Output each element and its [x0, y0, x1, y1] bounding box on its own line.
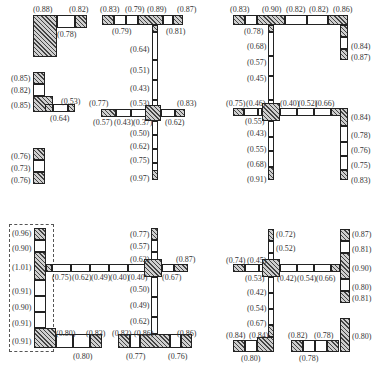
value-label: (0.80) — [241, 354, 260, 363]
plain-segment-panel-top-right — [268, 56, 274, 76]
hatched-segment-panel-top-right — [233, 15, 245, 25]
value-label: (0.78) — [314, 331, 333, 340]
plain-segment-panel-bottom-left — [109, 264, 128, 272]
hatched-segment-panel-top-right — [257, 15, 285, 25]
value-label: (0.49) — [91, 273, 110, 282]
hatched-segment-panel-top-left — [152, 25, 158, 32]
value-label: (0.57) — [93, 118, 112, 127]
value-label: (0.50) — [130, 285, 149, 294]
value-label: (0.67) — [162, 273, 181, 282]
hatched-segment-panel-bottom-right — [233, 264, 245, 272]
value-label: (0.83) — [177, 99, 196, 108]
plain-segment-panel-bottom-right — [315, 340, 327, 352]
hatched-segment-panel-top-right — [268, 167, 274, 180]
value-label: (0.77) — [126, 352, 145, 361]
plain-segment-panel-bottom-right — [268, 293, 274, 309]
value-label: (0.76) — [11, 152, 30, 161]
value-label: (0.85) — [11, 101, 30, 110]
plain-segment-panel-bottom-right — [340, 279, 350, 291]
plain-segment-panel-top-left — [152, 80, 158, 100]
value-label: (0.80) — [352, 332, 371, 341]
value-label: (0.88) — [33, 5, 52, 14]
plain-segment-panel-top-right — [340, 142, 348, 156]
value-label: (0.66) — [315, 99, 334, 108]
value-label: (0.78) — [351, 131, 370, 140]
hatched-segment-panel-top-right — [340, 170, 348, 180]
value-label: (0.62) — [130, 142, 149, 151]
hatched-segment-panel-bottom-left — [34, 328, 56, 348]
value-label: (0.46) — [246, 99, 265, 108]
hatched-segment-panel-top-left — [33, 172, 45, 184]
plain-segment-panel-bottom-left — [34, 240, 46, 252]
value-label: (0.45) — [247, 256, 266, 265]
value-label: (0.80) — [56, 329, 75, 338]
plain-segment-panel-bottom-left — [151, 240, 158, 252]
value-label: (0.82) — [69, 5, 88, 14]
hatched-segment-panel-bottom-right — [268, 229, 274, 241]
value-label: (0.62) — [165, 118, 184, 127]
value-label: (0.57) — [247, 58, 266, 67]
hatched-segment-panel-top-right — [340, 25, 348, 37]
plain-segment-panel-bottom-left — [34, 280, 46, 296]
plain-segment-panel-bottom-right — [340, 241, 350, 253]
plain-segment-panel-bottom-right — [245, 340, 257, 352]
hatched-segment-panel-bottom-right — [340, 229, 350, 241]
value-label: (0.75) — [226, 99, 245, 108]
plain-segment-panel-top-left — [114, 15, 126, 25]
value-label: (0.43) — [247, 129, 266, 138]
value-label: (0.84) — [226, 331, 245, 340]
plain-segment-panel-bottom-right — [297, 264, 314, 272]
value-label: (0.75) — [52, 273, 71, 282]
value-label: (0.84) — [351, 42, 370, 51]
plain-segment-panel-top-left — [152, 149, 158, 163]
plain-segment-panel-bottom-left — [151, 277, 158, 297]
hatched-segment-panel-bottom-right — [327, 340, 339, 352]
hatched-segment-panel-bottom-left — [34, 252, 46, 280]
plain-segment-panel-bottom-left — [34, 312, 46, 328]
plain-segment-panel-bottom-left — [151, 297, 158, 317]
value-label: (0.86) — [333, 5, 352, 14]
value-label: (0.40) — [128, 273, 147, 282]
plain-segment-panel-top-left — [152, 60, 158, 80]
value-label: (0.78) — [244, 27, 263, 36]
hatched-segment-panel-bottom-left — [174, 264, 188, 272]
value-label: (0.87) — [177, 5, 196, 14]
plain-segment-panel-bottom-right — [314, 264, 331, 272]
plain-segment-panel-bottom-right — [245, 264, 259, 272]
value-label: (0.86) — [177, 329, 196, 338]
value-label: (0.90) — [12, 244, 31, 253]
plain-segment-panel-top-right — [314, 108, 331, 116]
value-label: (0.64) — [130, 45, 149, 54]
value-label: (0.53) — [61, 97, 80, 106]
value-label: (0.90) — [12, 303, 31, 312]
value-label: (0.80) — [352, 283, 371, 292]
hatched-segment-panel-top-left — [173, 15, 183, 25]
value-label: (0.75) — [130, 156, 149, 165]
plain-segment-panel-top-left — [57, 15, 75, 28]
value-label: (0.78) — [299, 354, 318, 363]
plain-segment-panel-top-left — [33, 84, 45, 96]
value-label: (0.53) — [245, 274, 264, 283]
value-label: (0.64) — [50, 114, 69, 123]
plain-segment-panel-top-left — [161, 109, 175, 117]
value-label: (0.83) — [230, 5, 249, 14]
value-label: (0.75) — [351, 161, 370, 170]
hatched-segment-panel-top-left — [45, 104, 53, 112]
plain-segment-panel-bottom-left — [151, 252, 158, 260]
plain-segment-panel-bottom-left — [34, 296, 46, 312]
value-label: (0.82) — [112, 329, 131, 338]
value-label: (0.81) — [166, 27, 185, 36]
plain-segment-panel-top-right — [268, 121, 274, 137]
value-label: (0.40) — [280, 99, 299, 108]
value-label: (0.73) — [11, 164, 30, 173]
value-label: (0.45) — [247, 74, 266, 83]
value-label: (0.74) — [226, 256, 245, 265]
value-label: (0.90) — [262, 5, 281, 14]
hatched-segment-panel-top-left — [101, 109, 116, 117]
hatched-segment-panel-top-left — [75, 15, 87, 28]
value-label: (0.87) — [352, 230, 371, 239]
plain-segment-panel-top-right — [285, 15, 307, 25]
hatched-segment-panel-bottom-right — [340, 318, 350, 352]
value-label: (0.91) — [12, 319, 31, 328]
hatched-segment-panel-top-left — [138, 15, 163, 25]
